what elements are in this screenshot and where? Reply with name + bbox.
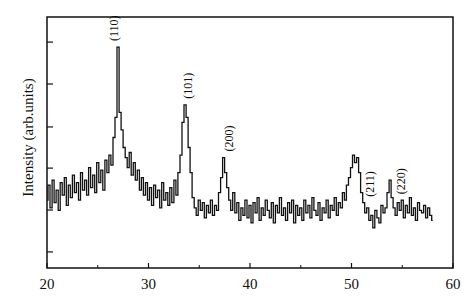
peak-label: (200): [222, 126, 236, 152]
y-axis-ticks: [47, 42, 53, 252]
plot-frame: [47, 17, 453, 268]
x-tick-label: 20: [40, 276, 55, 292]
x-tick-label: 30: [141, 276, 156, 292]
y-axis-label: Intensity (arb.units): [20, 78, 37, 196]
peak-label: (211): [363, 171, 377, 197]
xrd-series-line: [47, 47, 433, 228]
x-tick-label: 60: [446, 276, 461, 292]
x-axis-tick-labels: 2030405060: [40, 276, 461, 292]
peak-label: (110): [107, 16, 121, 42]
x-tick-label: 50: [344, 276, 359, 292]
peak-label: (101): [181, 73, 195, 99]
peak-annotations: (110)(101)(200)(211)(220): [107, 16, 408, 197]
xrd-chart: 2030405060 (110)(101)(200)(211)(220) Int…: [0, 0, 475, 298]
x-tick-label: 40: [243, 276, 258, 292]
peak-label: (220): [394, 168, 408, 194]
